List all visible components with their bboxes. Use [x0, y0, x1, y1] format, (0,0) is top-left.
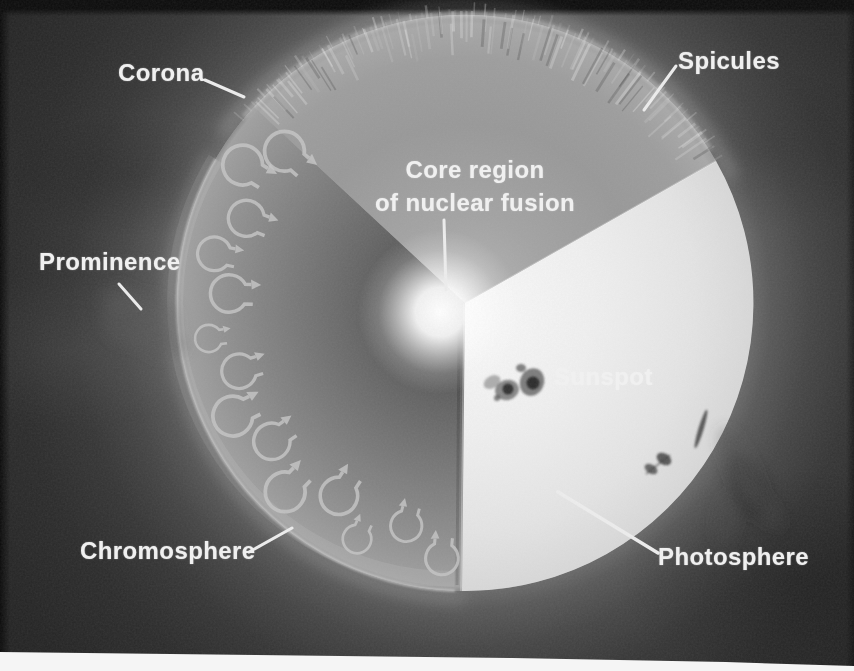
label-prominence: Prominence: [39, 248, 180, 276]
label-photosphere: Photosphere: [658, 543, 809, 571]
label-spicules: Spicules: [678, 47, 780, 75]
label-corona: Corona: [118, 59, 204, 87]
scanned-textbook-page: Corona Spicules Core region of nuclear f…: [0, 0, 854, 671]
sun-photo-background: Corona Spicules Core region of nuclear f…: [0, 0, 854, 671]
label-core-region-line1: Core region: [355, 153, 595, 186]
label-sunspot: Sunspot: [554, 363, 653, 391]
label-core-region-line2: of nuclear fusion: [355, 186, 595, 219]
label-core-region: Core region of nuclear fusion: [355, 153, 595, 219]
label-chromosphere: Chromosphere: [80, 537, 256, 565]
